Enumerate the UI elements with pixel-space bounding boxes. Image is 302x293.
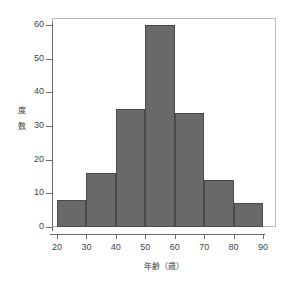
x-axis-tick — [263, 234, 264, 239]
x-axis-tick — [86, 234, 87, 239]
y-axis-tick-label: 20 — [20, 155, 44, 164]
histogram-bar — [86, 173, 115, 227]
y-axis-tick-label: 50 — [20, 54, 44, 63]
x-axis-tick-label: 80 — [222, 242, 246, 252]
y-axis-title: 度数 — [14, 103, 30, 135]
x-axis-tick-label: 30 — [74, 242, 98, 252]
y-axis-tick — [46, 59, 52, 60]
x-axis-tick — [145, 234, 146, 239]
x-axis-title: 年齢（歳） — [52, 262, 276, 272]
histogram-bar — [145, 25, 174, 227]
x-axis-tick — [234, 234, 235, 239]
histogram-bar — [234, 203, 263, 227]
y-axis-tick — [46, 25, 52, 26]
y-axis-tick — [46, 193, 52, 194]
x-axis-tick — [57, 234, 58, 239]
histogram-bar — [57, 200, 86, 227]
x-axis-tick — [175, 234, 176, 239]
x-axis-tick — [204, 234, 205, 239]
y-axis-tick — [46, 160, 52, 161]
y-axis-title-char: 度 — [14, 103, 30, 119]
bars-layer — [52, 18, 276, 227]
histogram-bar — [204, 180, 233, 227]
histogram-bar — [175, 113, 204, 227]
y-axis-tick-label: 0 — [20, 222, 44, 231]
y-axis-tick — [46, 227, 52, 228]
y-axis-tick-label: 60 — [20, 20, 44, 29]
x-axis-tick-label: 90 — [251, 242, 275, 252]
y-axis-tick-label: 40 — [20, 87, 44, 96]
histogram-bar — [116, 109, 145, 227]
caption-strip — [60, 284, 250, 290]
x-axis-tick-label: 60 — [163, 242, 187, 252]
x-axis-tick-label: 70 — [192, 242, 216, 252]
y-axis-tick-label: 10 — [20, 188, 44, 197]
x-axis-tick-label: 20 — [45, 242, 69, 252]
x-axis-tick-label: 50 — [133, 242, 157, 252]
y-axis-line — [52, 22, 53, 231]
y-axis-tick — [46, 92, 52, 93]
x-axis-tick-label: 40 — [104, 242, 128, 252]
histogram-figure: 0102030405060 2030405060708090 度数 年齢（歳） — [0, 0, 302, 293]
y-axis-tick — [46, 126, 52, 127]
y-axis-title-char: 数 — [14, 119, 30, 135]
x-axis-tick — [116, 234, 117, 239]
